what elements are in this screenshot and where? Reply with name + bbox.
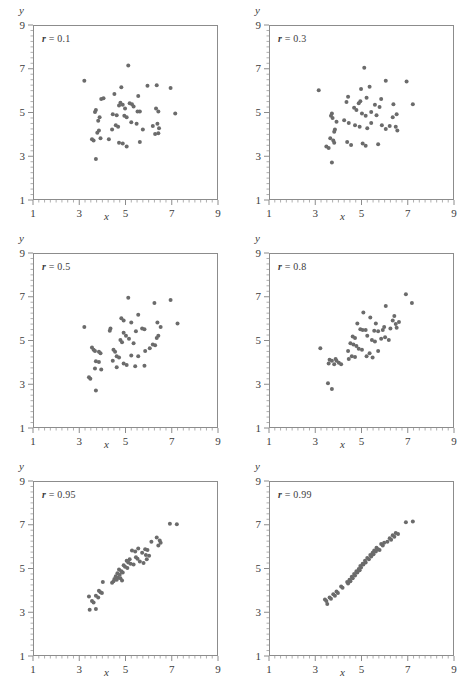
data-point: [365, 354, 369, 358]
data-point: [142, 364, 146, 368]
data-point: [82, 325, 86, 329]
scatter-panel: y 1357913579 r = 0.95 x: [0, 456, 236, 684]
data-point: [117, 356, 121, 360]
data-point: [332, 141, 336, 145]
x-tick-label: 3: [313, 663, 319, 675]
data-point: [384, 127, 388, 131]
data-point: [330, 160, 334, 164]
data-point: [384, 304, 388, 308]
data-point: [389, 538, 393, 542]
scatter-panel: y 1357913579 r = 0.8 x: [236, 228, 471, 456]
x-tick-label: 5: [359, 207, 365, 219]
x-tick-label: 3: [313, 207, 319, 219]
data-point: [119, 85, 123, 89]
x-tick-label: 5: [359, 435, 365, 447]
data-point: [371, 356, 375, 360]
data-point: [330, 359, 334, 363]
data-point: [332, 130, 336, 134]
y-tick-label: 3: [20, 150, 26, 162]
data-point: [136, 313, 140, 317]
data-point: [332, 362, 336, 366]
y-tick-label: 3: [20, 378, 26, 390]
data-point: [375, 113, 379, 117]
r-equals: =: [46, 261, 57, 272]
x-tick-label: 7: [169, 435, 175, 447]
r-value: 0.99: [293, 489, 311, 500]
y-tick-label: 7: [20, 62, 26, 74]
data-point: [345, 140, 349, 144]
panel-inner: y 1357913579 r = 0.99 x: [236, 456, 471, 684]
correlation-annotation: r = 0.5: [42, 261, 70, 272]
data-point: [115, 113, 119, 117]
data-point: [126, 296, 130, 300]
y-tick-label: 7: [256, 290, 262, 302]
data-point: [145, 557, 149, 561]
y-tick-label: 1: [20, 194, 26, 206]
data-point: [155, 336, 159, 340]
data-point: [176, 321, 180, 325]
data-point: [99, 136, 103, 140]
r-equals: =: [46, 489, 57, 500]
data-point: [410, 301, 414, 305]
x-tick-label: 5: [123, 207, 129, 219]
x-axis-label: x: [340, 667, 345, 678]
data-point: [379, 97, 383, 101]
data-points: [82, 63, 177, 160]
data-point: [135, 122, 139, 126]
y-tick-label: 9: [20, 475, 26, 487]
data-point: [101, 580, 105, 584]
plot-canvas: 1357913579: [0, 456, 236, 684]
data-point: [346, 95, 350, 99]
y-tick-label: 3: [20, 606, 26, 618]
data-points: [82, 296, 179, 393]
data-point: [346, 581, 350, 585]
y-tick-label: 9: [20, 19, 26, 31]
axis-tick-labels: 1357913579: [256, 19, 458, 219]
data-point: [391, 102, 395, 106]
plot-canvas: 1357913579: [236, 228, 471, 456]
data-point: [368, 316, 372, 320]
data-point: [396, 532, 400, 536]
x-tick-label: 5: [123, 435, 129, 447]
data-point: [169, 298, 173, 302]
r-value: 0.5: [57, 261, 70, 272]
x-tick-label: 9: [215, 435, 221, 447]
data-point: [151, 124, 155, 128]
y-tick-label: 5: [256, 106, 262, 118]
data-point: [353, 336, 357, 340]
plot-canvas: 1357913579: [236, 0, 471, 228]
data-point: [155, 321, 159, 325]
data-point: [360, 348, 364, 352]
data-point: [156, 109, 160, 113]
data-point: [358, 125, 362, 129]
y-tick-label: 9: [256, 247, 262, 259]
data-point: [327, 361, 331, 365]
data-point: [98, 115, 102, 119]
data-point: [346, 349, 350, 353]
data-point: [134, 329, 138, 333]
panel-inner: y 1357913579 r = 0.95 x: [0, 456, 236, 684]
y-tick-label: 5: [20, 562, 26, 574]
data-points: [318, 292, 414, 391]
data-point: [120, 340, 124, 344]
data-point: [367, 557, 371, 561]
data-point: [364, 328, 368, 332]
data-point: [391, 115, 395, 119]
data-point: [365, 334, 369, 338]
y-tick-label: 1: [20, 650, 26, 662]
x-axis-label: x: [104, 667, 109, 678]
y-tick-label: 1: [256, 650, 262, 662]
data-point: [88, 377, 92, 381]
data-point: [395, 112, 399, 116]
data-point: [359, 87, 363, 91]
data-point: [93, 349, 97, 353]
x-tick-label: 3: [77, 435, 83, 447]
x-axis-label: x: [340, 439, 345, 450]
x-tick-label: 3: [313, 435, 319, 447]
data-point: [87, 595, 91, 599]
data-point: [115, 365, 119, 369]
data-point: [127, 337, 131, 341]
x-tick-label: 7: [405, 663, 411, 675]
data-point: [173, 112, 177, 116]
data-point: [96, 595, 100, 599]
